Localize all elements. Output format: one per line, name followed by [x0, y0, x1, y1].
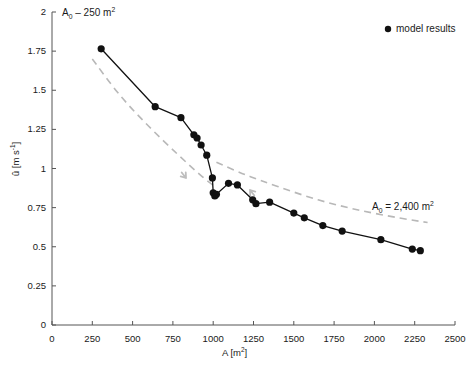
- x-axis-ticks: [52, 321, 455, 325]
- y-tick-label: 0.5: [4, 242, 46, 252]
- data-point-marker: [225, 180, 232, 187]
- data-point-marker: [290, 210, 297, 217]
- data-point-marker: [266, 199, 273, 206]
- y-axis-ticks: [52, 12, 56, 325]
- reference-curves: [92, 59, 427, 223]
- data-point-marker: [339, 228, 346, 235]
- data-point-marker: [409, 245, 416, 252]
- data-point-marker: [193, 134, 200, 141]
- chart-figure: A0 – 250 m2 A0 = 2,400 m2 model results …: [0, 0, 468, 373]
- y-tick-label: 2: [4, 7, 46, 17]
- y-tick-label: 1.5: [4, 85, 46, 95]
- data-point-marker: [198, 141, 205, 148]
- axis-lines: [52, 12, 455, 325]
- data-point-marker: [203, 152, 210, 159]
- legend-marker-icon: [385, 26, 391, 32]
- y-tick-label: 1.75: [4, 46, 46, 56]
- data-point-marker: [98, 45, 105, 52]
- model-results-line: [101, 49, 420, 251]
- plot-area: [0, 0, 468, 373]
- data-point-marker: [377, 236, 384, 243]
- annotation-right-curve: A0 = 2,400 m2: [372, 202, 434, 212]
- data-point-marker: [234, 181, 241, 188]
- x-axis-label: A [m2]: [222, 348, 247, 358]
- x-tick-label: 2500: [430, 334, 468, 344]
- data-point-marker: [177, 114, 184, 121]
- data-point-marker: [152, 103, 159, 110]
- left-curve-arrow: [179, 171, 188, 180]
- y-tick-label: 1: [4, 164, 46, 174]
- data-point-marker: [301, 214, 308, 221]
- data-point-marker: [209, 174, 216, 181]
- data-point-marker: [213, 191, 220, 198]
- model-results-markers: [98, 45, 424, 254]
- data-point-marker: [252, 200, 259, 207]
- y-tick-label: 1.25: [4, 124, 46, 134]
- data-point-marker: [417, 247, 424, 254]
- y-tick-label: 0: [4, 320, 46, 330]
- annotation-left-curve: A0 – 250 m2: [62, 8, 115, 18]
- data-point-marker: [319, 222, 326, 229]
- legend-label: model results: [396, 24, 455, 34]
- y-tick-label: 0.75: [4, 203, 46, 213]
- y-tick-label: 0.25: [4, 281, 46, 291]
